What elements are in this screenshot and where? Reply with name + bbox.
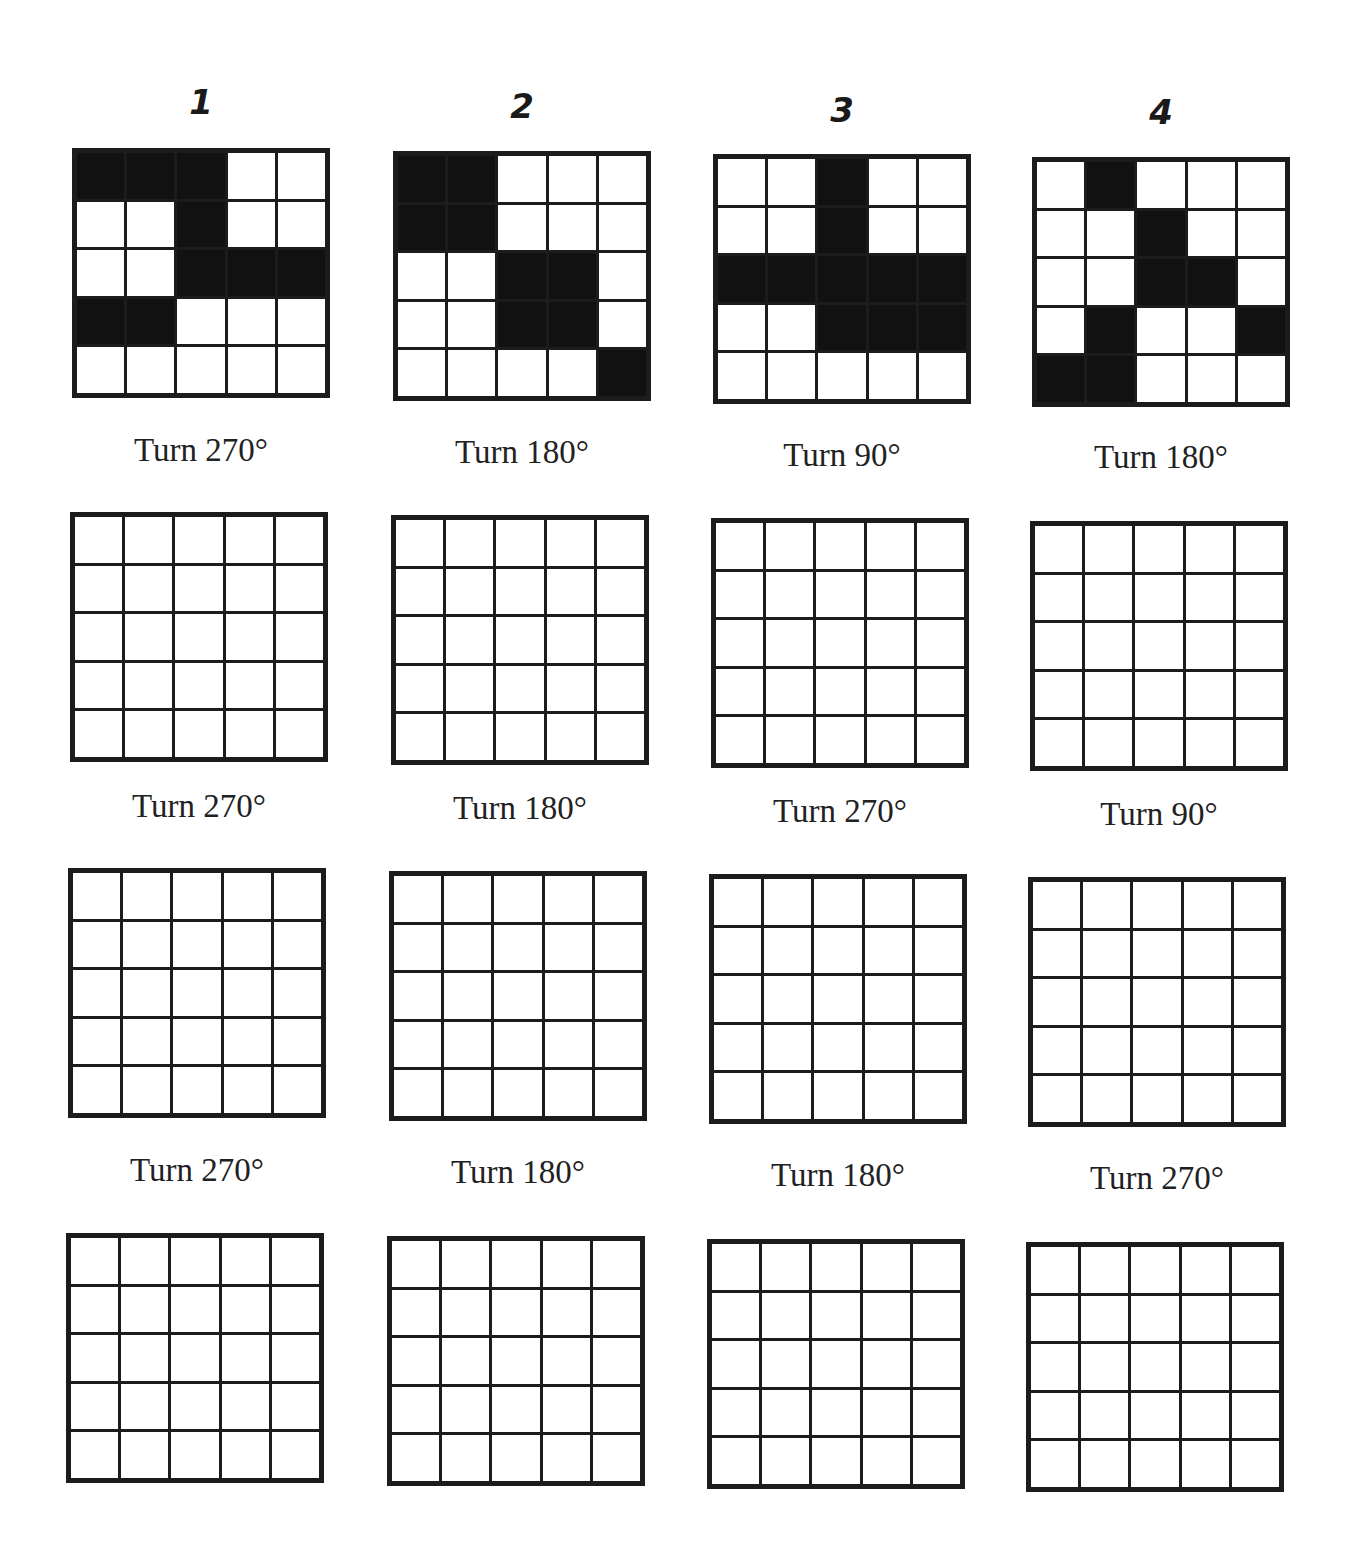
grid-cell[interactable]: [1035, 720, 1082, 766]
grid-cell[interactable]: [226, 566, 273, 612]
grid-cell[interactable]: [444, 1070, 491, 1116]
grid-cell[interactable]: [1035, 672, 1082, 718]
grid-cell[interactable]: [73, 922, 120, 968]
grid-cell[interactable]: [597, 617, 644, 663]
grid-cell[interactable]: [226, 517, 273, 563]
grid-cell[interactable]: [274, 922, 321, 968]
grid-cell[interactable]: [716, 572, 763, 618]
grid-cell[interactable]: [274, 1019, 321, 1065]
grid-cell[interactable]: [1184, 1076, 1231, 1122]
grid-cell[interactable]: [396, 666, 443, 712]
grid-cell[interactable]: [125, 663, 172, 709]
grid-cell[interactable]: [814, 1073, 861, 1119]
grid-cell[interactable]: [396, 714, 443, 760]
grid-cell[interactable]: [1135, 672, 1182, 718]
grid-cell[interactable]: [917, 669, 964, 715]
grid-cell[interactable]: [597, 569, 644, 615]
grid-cell[interactable]: [1033, 931, 1080, 977]
grid-cell[interactable]: [494, 1022, 541, 1068]
grid-cell[interactable]: [222, 1238, 269, 1284]
grid-cell[interactable]: [712, 1390, 759, 1436]
grid-cell[interactable]: [593, 1338, 640, 1384]
grid-cell[interactable]: [1182, 1441, 1229, 1487]
grid-cell[interactable]: [1234, 931, 1281, 977]
grid-cell[interactable]: [496, 714, 543, 760]
grid-cell[interactable]: [1031, 1393, 1078, 1439]
grid-cell[interactable]: [442, 1241, 489, 1287]
grid-cell[interactable]: [814, 1025, 861, 1071]
grid-cell[interactable]: [1234, 1028, 1281, 1074]
grid-cell[interactable]: [171, 1238, 218, 1284]
grid-cell[interactable]: [1186, 575, 1233, 621]
grid-cell[interactable]: [1131, 1393, 1178, 1439]
grid-cell[interactable]: [764, 976, 811, 1022]
grid-cell[interactable]: [226, 711, 273, 757]
grid-cell[interactable]: [867, 572, 914, 618]
grid-cell[interactable]: [1234, 979, 1281, 1025]
grid-cell[interactable]: [276, 517, 323, 563]
grid-cell[interactable]: [762, 1293, 809, 1339]
grid-cell[interactable]: [173, 873, 220, 919]
grid-cell[interactable]: [1182, 1247, 1229, 1293]
grid-cell[interactable]: [547, 520, 594, 566]
grid-cell[interactable]: [716, 620, 763, 666]
grid-cell[interactable]: [1035, 526, 1082, 572]
grid-cell[interactable]: [1133, 1028, 1180, 1074]
grid-cell[interactable]: [121, 1432, 168, 1478]
answer-grid-1-1[interactable]: [70, 512, 328, 762]
grid-cell[interactable]: [276, 663, 323, 709]
grid-cell[interactable]: [1232, 1393, 1279, 1439]
grid-cell[interactable]: [175, 711, 222, 757]
grid-cell[interactable]: [276, 711, 323, 757]
grid-cell[interactable]: [545, 925, 592, 971]
grid-cell[interactable]: [764, 1025, 811, 1071]
grid-cell[interactable]: [1186, 623, 1233, 669]
grid-cell[interactable]: [171, 1287, 218, 1333]
grid-cell[interactable]: [224, 1019, 271, 1065]
grid-cell[interactable]: [712, 1244, 759, 1290]
grid-cell[interactable]: [766, 523, 813, 569]
grid-cell[interactable]: [816, 669, 863, 715]
grid-cell[interactable]: [175, 663, 222, 709]
grid-cell[interactable]: [595, 973, 642, 1019]
grid-cell[interactable]: [543, 1387, 590, 1433]
grid-cell[interactable]: [492, 1435, 539, 1481]
grid-cell[interactable]: [915, 1073, 962, 1119]
grid-cell[interactable]: [863, 1341, 910, 1387]
grid-cell[interactable]: [812, 1293, 859, 1339]
grid-cell[interactable]: [1083, 1028, 1130, 1074]
grid-cell[interactable]: [1083, 1076, 1130, 1122]
grid-cell[interactable]: [71, 1384, 118, 1430]
grid-cell[interactable]: [75, 517, 122, 563]
grid-cell[interactable]: [1133, 979, 1180, 1025]
grid-cell[interactable]: [121, 1238, 168, 1284]
grid-cell[interactable]: [913, 1341, 960, 1387]
answer-grid-2-2[interactable]: [389, 871, 647, 1121]
grid-cell[interactable]: [863, 1244, 910, 1290]
grid-cell[interactable]: [123, 1067, 170, 1113]
grid-cell[interactable]: [812, 1341, 859, 1387]
grid-cell[interactable]: [712, 1438, 759, 1484]
grid-cell[interactable]: [444, 973, 491, 1019]
grid-cell[interactable]: [123, 970, 170, 1016]
grid-cell[interactable]: [394, 876, 441, 922]
grid-cell[interactable]: [272, 1432, 319, 1478]
grid-cell[interactable]: [1085, 672, 1132, 718]
grid-cell[interactable]: [492, 1241, 539, 1287]
grid-cell[interactable]: [494, 876, 541, 922]
grid-cell[interactable]: [597, 520, 644, 566]
grid-cell[interactable]: [1234, 1076, 1281, 1122]
grid-cell[interactable]: [1033, 1028, 1080, 1074]
grid-cell[interactable]: [1184, 979, 1231, 1025]
grid-cell[interactable]: [547, 617, 594, 663]
grid-cell[interactable]: [766, 669, 813, 715]
grid-cell[interactable]: [1182, 1344, 1229, 1390]
grid-cell[interactable]: [1232, 1247, 1279, 1293]
grid-cell[interactable]: [442, 1338, 489, 1384]
grid-cell[interactable]: [75, 614, 122, 660]
grid-cell[interactable]: [1186, 672, 1233, 718]
grid-cell[interactable]: [492, 1290, 539, 1336]
grid-cell[interactable]: [764, 879, 811, 925]
answer-grid-3-3[interactable]: [707, 1239, 965, 1489]
grid-cell[interactable]: [545, 876, 592, 922]
